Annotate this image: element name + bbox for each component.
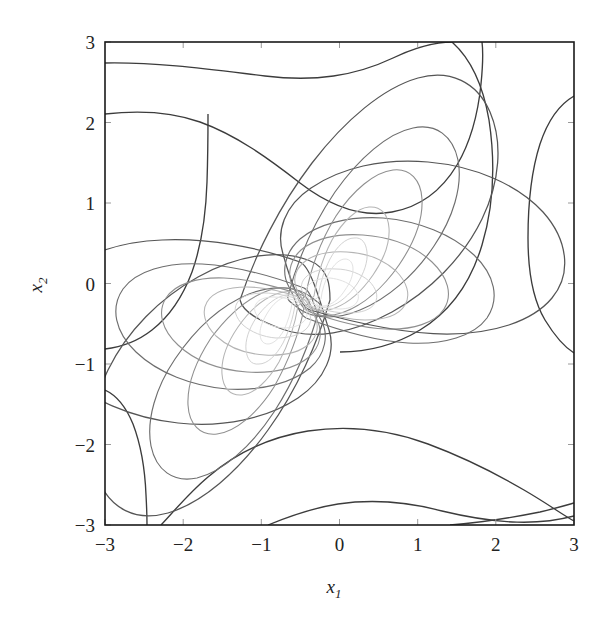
contour-plot-svg: −3 −2 −1 0 1 2 3 3 2 1 0 −1 −2 −3 x1 x2 (0, 0, 608, 631)
x-tick-label: −1 (251, 534, 271, 555)
x-axis-label: x1 (326, 576, 342, 601)
y-axis-label-text: x2 (25, 277, 50, 293)
x-tick-label: 1 (413, 534, 423, 555)
x-axis-label-text: x1 (326, 576, 342, 601)
y-tick-label: −1 (75, 354, 95, 375)
x-tick-label: 2 (491, 534, 501, 555)
x-tick-labels: −3 −2 −1 0 1 2 3 (95, 534, 579, 555)
y-axis-label: x2 (25, 277, 50, 293)
y-tick-label: 1 (86, 193, 96, 214)
y-tick-label: 3 (86, 32, 96, 53)
contour-figure: −3 −2 −1 0 1 2 3 3 2 1 0 −1 −2 −3 x1 x2 (0, 0, 608, 631)
y-tick-label: 2 (86, 113, 96, 134)
x-axis-label-sub: 1 (335, 586, 342, 601)
y-tick-label: −2 (75, 435, 95, 456)
y-axis-label-sub: 2 (35, 277, 50, 284)
y-tick-labels: 3 2 1 0 −1 −2 −3 (75, 32, 95, 536)
plot-background (105, 42, 574, 525)
y-tick-label: 0 (86, 274, 96, 295)
x-tick-label: 0 (335, 534, 345, 555)
x-tick-label: −2 (173, 534, 193, 555)
x-tick-label: 3 (569, 534, 579, 555)
x-tick-label: −3 (95, 534, 115, 555)
y-tick-label: −3 (75, 515, 95, 536)
